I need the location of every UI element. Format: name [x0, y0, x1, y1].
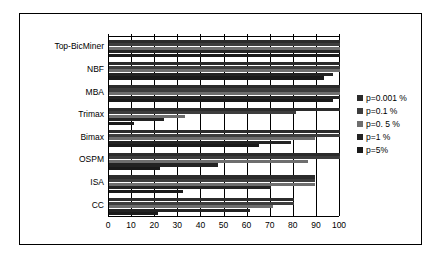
bar-group — [109, 82, 339, 105]
y-axis-label-bimax: Bimax — [80, 133, 104, 142]
y-axis-label-mba: MBA — [86, 88, 104, 97]
x-tick-label-60: 60 — [234, 220, 260, 231]
bar-group — [109, 173, 339, 196]
legend-swatch-icon — [357, 108, 363, 114]
bar-group — [109, 105, 339, 128]
bar-row — [109, 167, 340, 170]
x-tick-label-0: 0 — [95, 220, 121, 231]
legend-label: p=1 % — [366, 133, 390, 142]
y-axis-label-nbf: NBF — [87, 65, 104, 74]
x-tick-label-10: 10 — [118, 220, 144, 231]
legend-item[interactable]: p=0. 5 % — [357, 118, 423, 130]
y-axis-label-ospm: OSPM — [79, 155, 104, 164]
bar-row — [109, 76, 340, 79]
bar-row — [109, 190, 340, 193]
x-tick-label-40: 40 — [187, 220, 213, 231]
x-tick-label-50: 50 — [211, 220, 237, 231]
legend-swatch-icon — [357, 121, 363, 127]
x-axis-tick-labels: 0102030405060708090100 — [108, 220, 339, 234]
plot-area — [108, 36, 339, 217]
bar-row — [109, 122, 340, 125]
bar[interactable] — [109, 190, 183, 193]
bar[interactable] — [109, 99, 333, 102]
bar[interactable] — [109, 144, 259, 147]
x-tick-label-90: 90 — [303, 220, 329, 231]
bar-group — [109, 60, 339, 83]
bar[interactable] — [109, 76, 324, 79]
x-tick-label-30: 30 — [164, 220, 190, 231]
chart-frame: Top-BicMinerNBFMBATrimaxBimaxOSPMISACC 0… — [19, 13, 422, 245]
bar-group — [109, 128, 339, 151]
legend-item[interactable]: p=0.1 % — [357, 105, 423, 117]
bar[interactable] — [109, 167, 160, 170]
legend-label: p=0.001 % — [366, 94, 407, 103]
y-axis-label-cc: CC — [92, 201, 104, 210]
bar-row — [109, 212, 340, 215]
bar-group — [109, 150, 339, 173]
bar-row — [109, 144, 340, 147]
legend-item[interactable]: p=5% — [357, 144, 423, 156]
tick-100 — [339, 34, 340, 37]
bar[interactable] — [109, 122, 134, 125]
legend-label: p=0.1 % — [366, 107, 397, 116]
legend-label: p=5% — [366, 146, 388, 155]
x-tick-label-20: 20 — [141, 220, 167, 231]
legend-item[interactable]: p=1 % — [357, 131, 423, 143]
y-axis-label-isa: ISA — [90, 178, 104, 187]
x-tick-label-100: 100 — [326, 220, 352, 231]
x-tick-label-70: 70 — [257, 220, 283, 231]
legend-swatch-icon — [357, 95, 363, 101]
bar[interactable] — [109, 54, 340, 57]
legend-label: p=0. 5 % — [366, 120, 400, 129]
bar-row — [109, 54, 340, 57]
y-axis-label-trimax: Trimax — [78, 110, 104, 119]
x-tick-label-80: 80 — [280, 220, 306, 231]
bar-row — [109, 99, 340, 102]
legend: p=0.001 %p=0.1 %p=0. 5 %p=1 %p=5% — [357, 92, 423, 157]
y-axis-label-top-bicminer: Top-BicMiner — [54, 42, 104, 51]
bar-group — [109, 37, 339, 60]
bar[interactable] — [109, 212, 158, 215]
y-axis-category-labels: Top-BicMinerNBFMBATrimaxBimaxOSPMISACC — [20, 36, 104, 217]
bar-group — [109, 195, 339, 218]
legend-item[interactable]: p=0.001 % — [357, 92, 423, 104]
legend-swatch-icon — [357, 134, 363, 140]
legend-swatch-icon — [357, 147, 363, 153]
